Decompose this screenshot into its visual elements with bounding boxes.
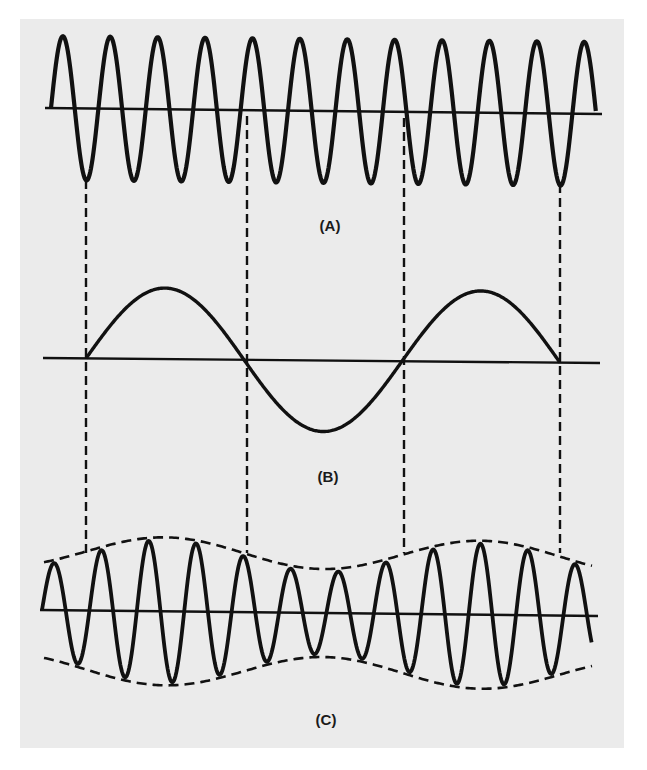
label-c: (C) <box>316 711 337 728</box>
label-a: (A) <box>320 217 341 234</box>
am-modulation-diagram: (A) (B) (C) <box>0 0 647 770</box>
label-b: (B) <box>318 468 339 485</box>
